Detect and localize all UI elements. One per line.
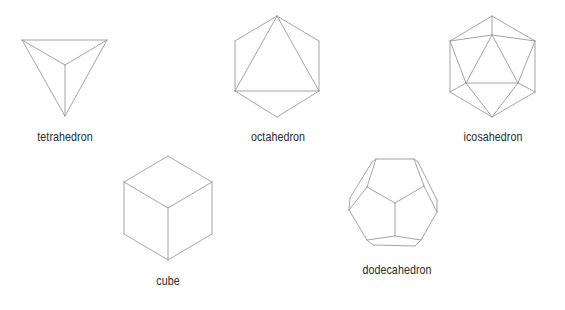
icosahedron-edge — [492, 83, 518, 117]
cube-edge — [124, 182, 168, 208]
icosahedron-edge — [450, 16, 492, 41]
tetrahedron-figure — [22, 40, 107, 116]
octahedron-edge — [235, 16, 277, 91]
icosahedron-edge — [450, 35, 492, 41]
icosahedron-edge — [518, 41, 535, 83]
dodecahedron-edge — [421, 212, 437, 240]
dodecahedron-edge — [367, 187, 395, 203]
dodecahedron-edge — [350, 162, 372, 198]
icosahedron-edge — [492, 92, 535, 117]
octahedron-figure — [235, 16, 319, 117]
icosahedron-label: icosahedron — [444, 129, 542, 144]
tetrahedron-edge — [65, 40, 107, 65]
octahedron-edge — [277, 91, 319, 117]
octahedron-edge — [277, 16, 319, 41]
cube-edge — [168, 156, 212, 182]
icosahedron-edge — [450, 41, 466, 83]
tetrahedron-label: tetrahedron — [16, 129, 114, 144]
polyhedra-diagram — [0, 0, 565, 310]
dodecahedron-edge — [367, 236, 395, 240]
dodecahedron-edge — [373, 245, 415, 246]
icosahedron-edge — [492, 16, 535, 41]
dodecahedron-edge — [349, 187, 367, 210]
cube-edge — [168, 234, 212, 260]
icosahedron-edge — [492, 35, 518, 83]
icosahedron-figure — [450, 16, 535, 117]
tetrahedron-edge — [22, 40, 65, 65]
dodecahedron-figure — [349, 159, 437, 246]
tetrahedron-edge — [65, 40, 107, 116]
octahedron-label: octahedron — [229, 129, 327, 144]
dodecahedron-edge — [418, 162, 437, 200]
icosahedron-edge — [466, 35, 492, 83]
cube-label: cube — [119, 273, 217, 288]
dodecahedron-edge — [367, 240, 373, 245]
dodecahedron-edge — [415, 240, 421, 246]
cube-edge — [124, 156, 168, 182]
tetrahedron-edge — [22, 40, 65, 116]
icosahedron-edge — [518, 83, 535, 92]
cube-edge — [168, 182, 212, 208]
icosahedron-edge — [466, 83, 492, 117]
octahedron-edge — [235, 16, 277, 41]
dodecahedron-edge — [349, 210, 367, 240]
cube-figure — [124, 156, 212, 260]
icosahedron-edge — [450, 83, 466, 92]
dodecahedron-edge — [395, 236, 421, 240]
icosahedron-edge — [492, 35, 535, 41]
octahedron-edge — [277, 16, 319, 91]
octahedron-edge — [235, 91, 277, 117]
icosahedron-edge — [450, 92, 492, 117]
dodecahedron-label: dodecahedron — [348, 262, 446, 277]
cube-edge — [124, 234, 168, 260]
dodecahedron-edge — [424, 186, 437, 212]
dodecahedron-edge — [395, 186, 424, 203]
